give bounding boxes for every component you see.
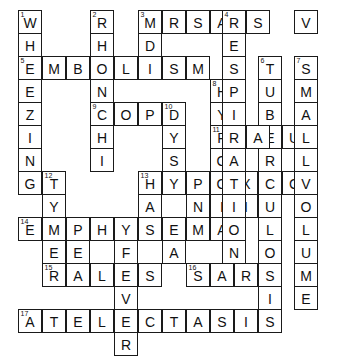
crossword-cell[interactable]: Y — [162, 125, 186, 149]
crossword-cell[interactable]: I — [90, 148, 114, 172]
crossword-cell[interactable]: V — [294, 10, 318, 34]
crossword-cell[interactable]: S — [258, 309, 282, 333]
crossword-cell[interactable]: U — [294, 240, 318, 264]
crossword-cell[interactable]: 13H — [138, 171, 162, 195]
crossword-cell[interactable]: P — [138, 102, 162, 126]
crossword-cell[interactable]: T — [42, 309, 66, 333]
crossword-cell[interactable]: 15R — [42, 263, 66, 287]
crossword-cell[interactable]: A — [210, 263, 234, 287]
crossword-cell[interactable]: E — [222, 33, 246, 57]
crossword-cell[interactable]: N — [186, 194, 210, 218]
crossword-cell[interactable]: C — [138, 309, 162, 333]
crossword-cell[interactable]: P — [66, 217, 90, 241]
crossword-cell[interactable]: D — [138, 33, 162, 57]
crossword-cell[interactable]: I — [222, 194, 246, 218]
crossword-cell[interactable]: R — [114, 332, 138, 356]
crossword-cell[interactable]: L — [114, 56, 138, 80]
crossword-cell[interactable]: B — [66, 56, 90, 80]
crossword-cell[interactable]: O — [90, 56, 114, 80]
crossword-cell[interactable]: S — [162, 56, 186, 80]
crossword-cell[interactable]: A — [294, 102, 318, 126]
crossword-cell[interactable]: L — [294, 217, 318, 241]
crossword-cell[interactable]: R — [162, 10, 186, 34]
crossword-cell[interactable]: S — [162, 148, 186, 172]
crossword-cell[interactable]: E — [114, 263, 138, 287]
crossword-cell[interactable]: L — [258, 217, 282, 241]
crossword-cell[interactable]: T — [222, 171, 246, 195]
crossword-cell[interactable]: E — [18, 79, 42, 103]
crossword-cell[interactable]: 12T — [42, 171, 66, 195]
crossword-cell[interactable]: R — [222, 125, 246, 149]
crossword-cell[interactable]: 16S — [186, 263, 210, 287]
crossword-cell[interactable]: 4R — [222, 10, 246, 34]
crossword-cell[interactable]: E — [42, 240, 66, 264]
crossword-cell[interactable]: S — [210, 309, 234, 333]
crossword-cell[interactable]: S — [138, 263, 162, 287]
crossword-cell[interactable]: S — [186, 10, 210, 34]
crossword-cell[interactable]: P — [186, 171, 210, 195]
crossword-cell[interactable]: H — [90, 217, 114, 241]
crossword-cell[interactable]: I — [138, 56, 162, 80]
crossword-cell[interactable]: 10D — [162, 102, 186, 126]
crossword-cell[interactable]: I — [18, 125, 42, 149]
crossword-cell[interactable]: A — [138, 194, 162, 218]
crossword-cell[interactable]: E — [66, 240, 90, 264]
crossword-cell[interactable]: M — [42, 217, 66, 241]
crossword-cell[interactable]: 5E — [18, 56, 42, 80]
crossword-cell[interactable]: A — [162, 240, 186, 264]
crossword-cell[interactable]: B — [258, 102, 282, 126]
crossword-cell[interactable]: L — [90, 263, 114, 287]
crossword-cell[interactable]: 2R — [90, 10, 114, 34]
crossword-cell[interactable]: 14E — [18, 217, 42, 241]
crossword-cell[interactable]: S — [222, 56, 246, 80]
crossword-cell[interactable]: M — [186, 56, 210, 80]
crossword-cell[interactable]: E — [66, 309, 90, 333]
crossword-cell[interactable]: M — [186, 217, 210, 241]
crossword-cell[interactable]: A — [222, 148, 246, 172]
crossword-cell[interactable]: E — [162, 217, 186, 241]
crossword-cell[interactable]: M — [294, 79, 318, 103]
crossword-cell[interactable]: E — [114, 309, 138, 333]
crossword-cell[interactable]: 17A — [18, 309, 42, 333]
crossword-cell[interactable]: V — [294, 171, 318, 195]
crossword-cell[interactable]: G — [18, 171, 42, 195]
crossword-cell[interactable]: 6T — [258, 56, 282, 80]
crossword-cell[interactable]: L — [294, 148, 318, 172]
crossword-cell[interactable]: N — [222, 240, 246, 264]
crossword-cell[interactable]: C — [258, 171, 282, 195]
crossword-cell[interactable]: T — [162, 309, 186, 333]
crossword-cell[interactable]: S — [246, 10, 270, 34]
crossword-cell[interactable]: O — [114, 102, 138, 126]
crossword-cell[interactable]: R — [258, 148, 282, 172]
crossword-cell[interactable]: I — [258, 286, 282, 310]
crossword-cell[interactable]: M — [294, 263, 318, 287]
crossword-cell[interactable]: V — [114, 286, 138, 310]
crossword-cell[interactable]: N — [90, 79, 114, 103]
crossword-cell[interactable]: A — [186, 309, 210, 333]
crossword-cell[interactable]: Z — [18, 102, 42, 126]
crossword-cell[interactable]: Y — [114, 217, 138, 241]
crossword-cell[interactable]: U — [258, 79, 282, 103]
crossword-cell[interactable]: S — [258, 263, 282, 287]
crossword-cell[interactable]: 1W — [18, 10, 42, 34]
crossword-cell[interactable]: H — [90, 33, 114, 57]
crossword-cell[interactable]: Y — [42, 194, 66, 218]
crossword-cell[interactable]: H — [90, 125, 114, 149]
crossword-cell[interactable]: H — [18, 33, 42, 57]
crossword-cell[interactable]: P — [222, 79, 246, 103]
crossword-cell[interactable]: I — [234, 309, 258, 333]
crossword-cell[interactable]: M — [42, 56, 66, 80]
crossword-cell[interactable]: 3M — [138, 10, 162, 34]
crossword-cell[interactable]: E — [294, 286, 318, 310]
crossword-cell[interactable]: S — [138, 217, 162, 241]
crossword-cell[interactable]: N — [18, 148, 42, 172]
crossword-cell[interactable]: U — [258, 194, 282, 218]
crossword-cell[interactable]: O — [294, 194, 318, 218]
crossword-cell[interactable]: A — [66, 263, 90, 287]
crossword-cell[interactable]: L — [294, 125, 318, 149]
crossword-cell[interactable]: L — [90, 309, 114, 333]
crossword-cell[interactable]: F — [114, 240, 138, 264]
crossword-cell[interactable]: 9C — [90, 102, 114, 126]
crossword-cell[interactable]: O — [222, 217, 246, 241]
